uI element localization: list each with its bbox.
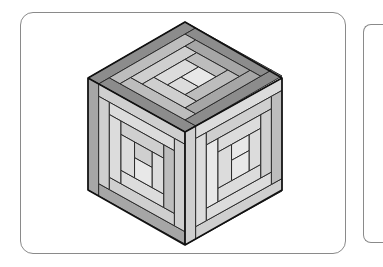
right-face-strip bbox=[271, 90, 282, 184]
left-face-strip bbox=[109, 115, 121, 184]
right-face-strip bbox=[206, 139, 218, 209]
left-face-strip bbox=[164, 145, 175, 214]
right-face-strip bbox=[196, 133, 207, 227]
left-face-strip bbox=[99, 96, 110, 189]
right-face-strip bbox=[249, 128, 261, 171]
left-face-strip bbox=[121, 134, 135, 177]
right-face-strip bbox=[218, 145, 232, 189]
left-face-strip bbox=[174, 138, 185, 231]
right-face-strip bbox=[185, 126, 196, 245]
left-face-strip bbox=[152, 152, 164, 194]
right-face-strip bbox=[261, 109, 272, 178]
left-face-strip bbox=[88, 78, 99, 196]
